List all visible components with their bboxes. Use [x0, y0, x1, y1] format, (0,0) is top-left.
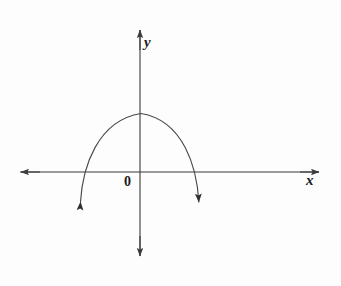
origin-label: 0 [124, 175, 131, 189]
x-axis-label: x [306, 173, 314, 188]
graph-figure: y x 0 [0, 0, 341, 286]
y-axis-label: y [144, 35, 151, 50]
coordinate-plane-svg [0, 0, 341, 286]
